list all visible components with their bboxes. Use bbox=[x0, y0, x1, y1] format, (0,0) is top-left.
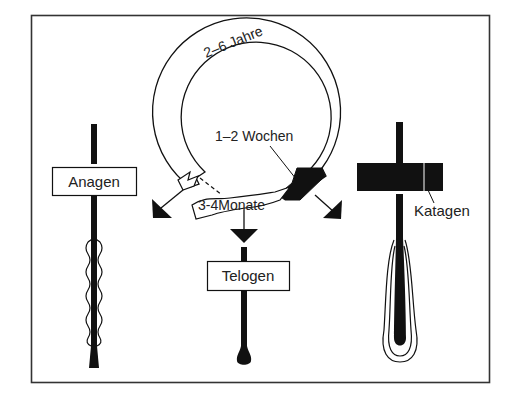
katagen-duration-arrow bbox=[278, 168, 325, 200]
hair-cycle-diagram: 2–6 Jahre 1–2 Wochen 3-4Monate bbox=[0, 0, 505, 401]
left-transition-arrow bbox=[152, 190, 183, 218]
down-transition-arrow bbox=[230, 210, 258, 243]
katagen-label: Katagen bbox=[414, 202, 470, 219]
ring-dashed-connector bbox=[200, 178, 222, 195]
katagen-duration-label: 1–2 Wochen bbox=[215, 128, 293, 144]
cycle-ring: 2–6 Jahre 1–2 Wochen 3-4Monate bbox=[153, 18, 341, 219]
anagen-hair bbox=[86, 124, 102, 368]
katagen-hair: Katagen bbox=[357, 122, 470, 362]
katagen-leader-line bbox=[270, 146, 300, 184]
telogen-duration-label: 3-4Monate bbox=[198, 197, 265, 213]
right-transition-arrow bbox=[315, 195, 342, 219]
anagen-label: Anagen bbox=[68, 173, 120, 190]
telogen-label: Telogen bbox=[222, 267, 275, 284]
